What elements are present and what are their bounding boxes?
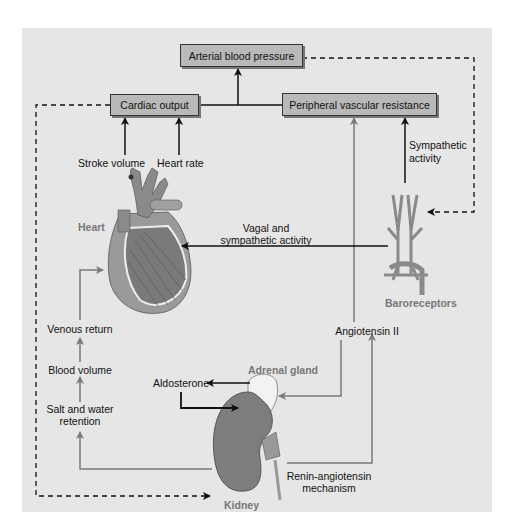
venous-return-label: Venous return [47,323,112,335]
baroreceptor-illustration [384,195,428,295]
stroke-volume-label: Stroke volume [78,157,145,169]
heart-label: Heart [78,221,105,233]
sympathetic-activity-label-1: Sympathetic [409,139,467,151]
sympathetic-activity-label-2: activity [409,152,441,164]
dashed-line-baroreceptor-feedback [302,58,474,212]
peripheral-vascular-resistance-box: Peripheral vascular resistance [282,93,437,116]
arrow-venous-return-to-heart [80,270,103,320]
arrow-kidney-to-salt-water [80,432,212,469]
heart-illustration [108,168,191,313]
blood-volume-label: Blood volume [48,364,112,376]
diagram-connectors [0,0,512,530]
salt-water-label-2: retention [60,415,101,427]
arterial-blood-pressure-box: Arterial blood pressure [180,44,303,67]
cardiac-output-box: Cardiac output [110,94,199,116]
aldosterone-label: Aldosterone [153,377,209,389]
vagal-label-2: sympathetic activity [220,234,311,246]
kidney-label: Kidney [224,499,259,511]
heart-rate-label: Heart rate [157,157,204,169]
salt-water-label-1: Salt and water [46,403,113,415]
vagal-label-1: Vagal and [243,222,290,234]
adrenal-gland-label: Adrenal gland [248,364,318,376]
angiotensin-ii-label: Angiotensin II [335,325,399,337]
arrow-renin-to-angiotensin [287,334,372,463]
renin-label-2: mechanism [302,482,356,494]
baroreceptors-label: Baroreceptors [385,297,457,309]
renin-label-1: Renin-angiotensin [287,470,372,482]
